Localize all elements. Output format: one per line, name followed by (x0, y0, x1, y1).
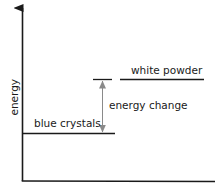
level-label-blue-crystals: blue crystals (34, 118, 101, 129)
x-axis (22, 181, 215, 182)
level-label-white-powder: white powder (131, 65, 202, 76)
y-axis-label: energy (9, 77, 20, 117)
energy-change-label: energy change (109, 100, 188, 111)
energy-diagram-canvas (0, 0, 218, 194)
